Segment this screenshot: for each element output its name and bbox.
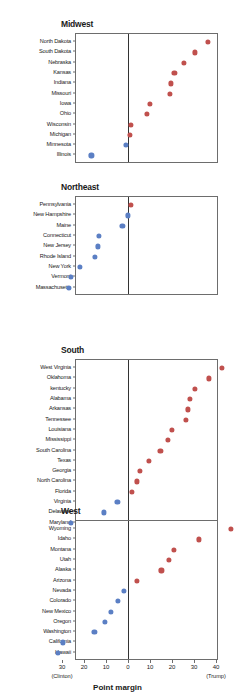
data-point bbox=[120, 223, 125, 228]
x-axis-tick-label: 30 bbox=[59, 664, 66, 670]
data-point bbox=[129, 489, 134, 494]
y-axis-label: North Dakota bbox=[40, 38, 71, 44]
data-point bbox=[166, 438, 171, 443]
y-axis-label: Florida bbox=[55, 488, 71, 494]
y-axis-label: Utah bbox=[60, 556, 71, 562]
data-point bbox=[121, 588, 126, 593]
plot-area bbox=[75, 520, 218, 660]
data-point bbox=[128, 203, 133, 208]
y-axis-label: Louisiana bbox=[48, 426, 71, 432]
y-axis-label: Wyoming bbox=[49, 525, 71, 531]
y-axis-label: Rhode Island bbox=[40, 253, 71, 259]
data-point bbox=[228, 527, 233, 532]
zero-reference-line bbox=[128, 34, 129, 162]
y-axis-label: New Hampshire bbox=[33, 211, 71, 217]
data-point bbox=[102, 619, 107, 624]
x-axis-tick-label: 0 bbox=[126, 664, 129, 670]
y-axis-label: Tennessee bbox=[45, 416, 71, 422]
data-point bbox=[167, 91, 172, 96]
data-point bbox=[77, 264, 82, 269]
y-axis-label: Nevada bbox=[53, 587, 71, 593]
y-axis-label: Indiana bbox=[54, 79, 71, 85]
y-axis-label: Washington bbox=[43, 628, 71, 634]
data-point bbox=[116, 599, 121, 604]
data-point bbox=[146, 458, 151, 463]
x-axis-tick bbox=[172, 660, 173, 663]
data-point bbox=[192, 386, 197, 391]
data-point bbox=[158, 448, 163, 453]
y-axis-label: South Carolina bbox=[36, 447, 71, 453]
y-axis-label: Nebraska bbox=[48, 59, 71, 65]
y-axis-label: New York bbox=[49, 263, 71, 269]
plot-area bbox=[75, 359, 218, 530]
panel-title: Northeast bbox=[61, 182, 99, 192]
y-axis-label: South Dakota bbox=[39, 48, 71, 54]
y-axis-label: Texas bbox=[57, 457, 71, 463]
x-axis-tick bbox=[194, 660, 195, 663]
y-axis-label: Wisconsin bbox=[47, 121, 71, 127]
data-point bbox=[219, 366, 224, 371]
data-point bbox=[205, 40, 210, 45]
y-axis-label: Michigan bbox=[50, 131, 71, 137]
data-point bbox=[68, 275, 73, 280]
data-point bbox=[166, 557, 171, 562]
y-axis-label: kentucky bbox=[50, 385, 71, 391]
data-point bbox=[95, 244, 100, 249]
zero-reference-line bbox=[128, 521, 129, 659]
x-axis-tick bbox=[106, 660, 107, 663]
data-point bbox=[172, 70, 177, 75]
data-point bbox=[159, 568, 164, 573]
y-axis-label: Virginia bbox=[54, 498, 71, 504]
data-point bbox=[170, 427, 175, 432]
y-axis-label: Missouri bbox=[51, 90, 71, 96]
panel-title: West bbox=[61, 506, 80, 516]
data-point bbox=[89, 153, 94, 158]
data-point bbox=[147, 101, 152, 106]
data-point bbox=[192, 50, 197, 55]
y-axis-label: North Carolina bbox=[37, 477, 71, 483]
y-axis-label: Ohio bbox=[60, 110, 71, 116]
data-point bbox=[135, 479, 140, 484]
data-point bbox=[184, 417, 189, 422]
y-axis-label: Iowa bbox=[60, 100, 71, 106]
data-point bbox=[96, 233, 101, 238]
x-axis-tick-label: 10 bbox=[103, 664, 110, 670]
data-point bbox=[168, 81, 173, 86]
data-point bbox=[134, 578, 139, 583]
y-axis-label: New Jersey bbox=[43, 242, 71, 248]
y-axis-label: Mississippi bbox=[46, 436, 71, 442]
y-axis-label: West Virginia bbox=[40, 364, 71, 370]
x-axis-tick-label: 20 bbox=[81, 664, 88, 670]
data-point bbox=[171, 547, 176, 552]
y-axis-label: Oregon bbox=[53, 618, 71, 624]
data-point bbox=[92, 254, 97, 259]
y-axis-label: Arkansas bbox=[49, 405, 71, 411]
x-axis-tick-label: 10 bbox=[147, 664, 154, 670]
data-point bbox=[92, 630, 97, 635]
y-axis-label: Oklahoma bbox=[47, 374, 71, 380]
y-axis-label: Arizona bbox=[53, 577, 71, 583]
x-axis-tick bbox=[84, 660, 85, 663]
y-axis-label: Pennsylvania bbox=[40, 201, 71, 207]
x-axis-tick-label: 30 bbox=[191, 664, 198, 670]
plot-area bbox=[75, 33, 218, 163]
data-point bbox=[186, 407, 191, 412]
y-axis-label: Maine bbox=[57, 222, 72, 228]
x-axis-tick bbox=[128, 660, 129, 663]
zero-reference-line bbox=[128, 360, 129, 529]
y-axis-label: Kansas bbox=[53, 69, 71, 75]
y-axis-label: Montana bbox=[50, 546, 71, 552]
y-axis-label: Minnesota bbox=[47, 141, 71, 147]
zero-reference-line bbox=[128, 197, 129, 294]
panel-title: Midwest bbox=[61, 19, 93, 29]
data-point bbox=[182, 60, 187, 65]
data-point bbox=[127, 132, 132, 137]
clinton-end-label: (Clinton) bbox=[51, 673, 72, 679]
dot-plot-figure: MidwestNorth DakotaSouth DakotaNebraskaK… bbox=[0, 0, 235, 693]
y-axis-label: New Mexico bbox=[42, 608, 71, 614]
panel-title: South bbox=[61, 345, 84, 355]
plot-area bbox=[75, 196, 218, 295]
data-point bbox=[196, 537, 201, 542]
data-point bbox=[187, 396, 192, 401]
y-axis-label: Alabama bbox=[50, 395, 71, 401]
